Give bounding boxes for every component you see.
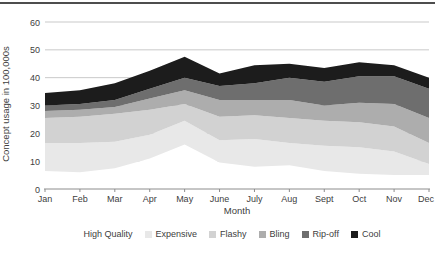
legend-swatch-high-quality — [73, 231, 80, 238]
legend-item-cool: Cool — [351, 229, 381, 239]
legend-label-rip-off: Rip-off — [313, 229, 339, 239]
legend-swatch-rip-off — [302, 231, 309, 238]
x-axis-title: Month — [224, 205, 250, 216]
x-tick-label-nov: Nov — [386, 194, 403, 204]
legend-label-high-quality: High Quality — [84, 229, 133, 239]
y-tick-label-50: 50 — [30, 45, 40, 55]
legend-item-expensive: Expensive — [145, 229, 198, 239]
x-tick-label-sept: Sept — [315, 194, 334, 204]
x-tick-label-oct: Oct — [352, 194, 367, 204]
legend-label-cool: Cool — [362, 229, 381, 239]
x-tick-label-dec: Dec — [418, 194, 435, 204]
legend-item-bling: Bling — [259, 229, 290, 239]
y-tick-label-30: 30 — [30, 101, 40, 111]
x-tick-label-jan: Jan — [38, 194, 53, 204]
legend-swatch-flashy — [209, 231, 216, 238]
x-tick-label-june: June — [210, 194, 230, 204]
y-axis-title: Concept usage in 100,000s — [0, 46, 11, 162]
y-tick-label-40: 40 — [30, 73, 40, 83]
x-tick-label-may: May — [176, 194, 194, 204]
y-tick-label-10: 10 — [30, 157, 40, 167]
legend-item-high-quality: High Quality — [73, 229, 133, 239]
stacked-area-chart: Concept usage in 100,000s Month 01020304… — [0, 0, 435, 254]
y-tick-label-0: 0 — [35, 185, 40, 195]
chart-canvas: Concept usage in 100,000s Month 01020304… — [0, 0, 435, 254]
legend-item-rip-off: Rip-off — [302, 229, 339, 239]
legend-swatch-bling — [259, 231, 266, 238]
legend-label-flashy: Flashy — [220, 229, 247, 239]
x-tick-label-apr: Apr — [143, 194, 157, 204]
x-tick-label-feb: Feb — [72, 194, 88, 204]
legend-swatch-expensive — [145, 231, 152, 238]
x-tick-label-aug: Aug — [281, 194, 297, 204]
legend-item-flashy: Flashy — [209, 229, 247, 239]
legend-label-expensive: Expensive — [156, 229, 198, 239]
y-tick-label-20: 20 — [30, 129, 40, 139]
x-tick-label-mar: Mar — [107, 194, 123, 204]
legend-label-bling: Bling — [270, 229, 290, 239]
legend-swatch-cool — [351, 231, 358, 238]
x-tick-label-july: July — [246, 194, 263, 204]
chart-legend: High QualityExpensiveFlashyBlingRip-offC… — [0, 227, 435, 241]
y-tick-label-60: 60 — [30, 18, 40, 28]
